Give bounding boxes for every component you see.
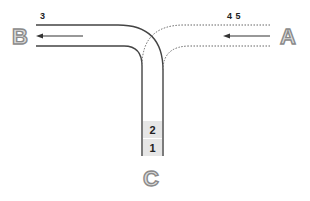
siding-car-1: 1: [143, 139, 162, 156]
station-a-label: A: [280, 26, 296, 48]
arrow-b-icon: [36, 34, 83, 39]
arrow-a-icon: [223, 34, 270, 39]
station-b-label: B: [12, 26, 28, 48]
siding-car-2: 2: [143, 121, 162, 138]
track-b-number: 3: [40, 12, 45, 21]
station-c-label: C: [143, 168, 159, 190]
track-a-numbers: 4 5: [227, 12, 241, 21]
track-a-inner-rail: [163, 46, 270, 70]
track-b-inner-rail: [36, 46, 142, 156]
